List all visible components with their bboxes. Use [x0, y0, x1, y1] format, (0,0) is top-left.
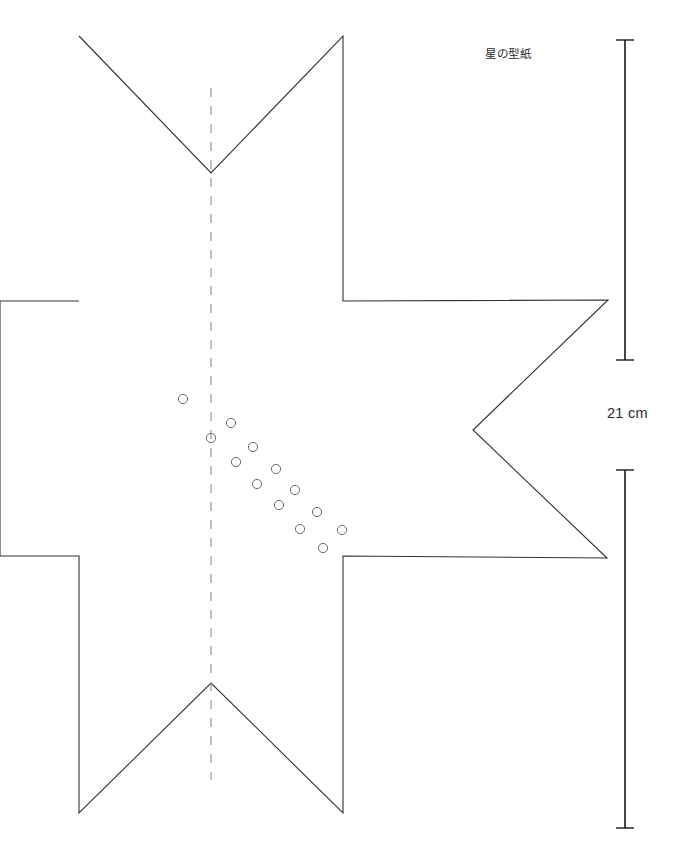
punch-hole — [271, 464, 280, 473]
punch-hole — [318, 543, 327, 552]
punch-hole — [312, 507, 321, 516]
pattern-sheet: 星の型紙 21 cm — [0, 0, 686, 846]
star-pattern-drawing — [0, 0, 686, 846]
dimension-measure-label: 21 cm — [607, 405, 648, 421]
dimension-line-21cm — [616, 40, 634, 828]
punch-hole-group — [178, 394, 346, 552]
punch-hole — [290, 485, 299, 494]
punch-hole — [178, 394, 187, 403]
star-outline-path — [0, 36, 608, 813]
punch-hole — [248, 442, 257, 451]
punch-hole — [231, 457, 240, 466]
punch-hole — [252, 479, 261, 488]
punch-hole — [274, 500, 283, 509]
pattern-title-label: 星の型紙 — [485, 45, 531, 61]
punch-hole — [337, 525, 346, 534]
punch-hole — [295, 524, 304, 533]
punch-hole — [226, 418, 235, 427]
